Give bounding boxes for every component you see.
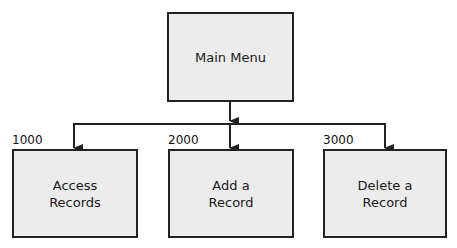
- delete-record-label: Delete a Record: [358, 177, 413, 211]
- add-record-label: Add a Record: [209, 177, 254, 211]
- access-records-code: 1000: [12, 133, 43, 147]
- delete-record-box: Delete a Record: [323, 149, 447, 238]
- label-line: Add a: [212, 178, 249, 193]
- label-line: Records: [49, 195, 101, 210]
- main-menu-label: Main Menu: [195, 49, 266, 66]
- delete-record-code: 3000: [323, 133, 354, 147]
- label-line: Access: [53, 178, 98, 193]
- main-menu-box: Main Menu: [167, 12, 294, 102]
- label-line: Record: [209, 195, 254, 210]
- label-line: Delete a: [358, 178, 413, 193]
- add-record-code: 2000: [168, 133, 199, 147]
- label-line: Record: [363, 195, 408, 210]
- access-records-box: Access Records: [12, 149, 138, 238]
- add-record-box: Add a Record: [168, 149, 294, 238]
- access-records-label: Access Records: [49, 177, 101, 211]
